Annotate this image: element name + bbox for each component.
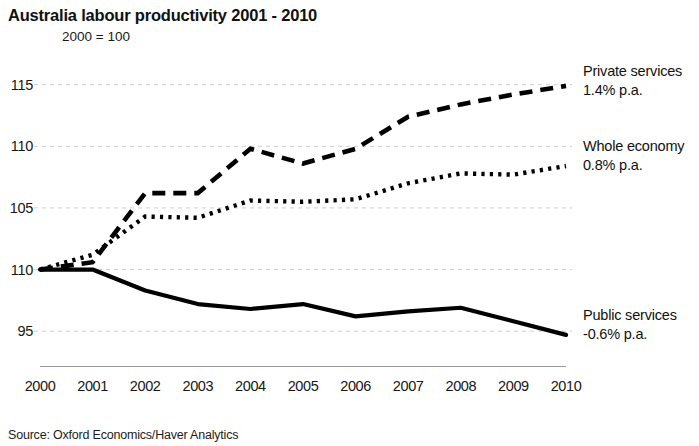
x-axis-tick-label: 2003	[182, 378, 213, 394]
series-annotation-whole-economy: Whole economy 0.8% p.a.	[583, 137, 684, 175]
x-axis-tick-label: 2005	[288, 378, 319, 394]
y-axis-labels: 11511010511095	[0, 60, 33, 362]
gridlines	[34, 85, 572, 332]
series-annotation-private-services: Private services 1.4% p.a.	[583, 62, 682, 100]
series-lines	[40, 86, 566, 335]
y-axis-tick-label: 115	[11, 77, 33, 93]
chart-subtitle: 2000 = 100	[62, 29, 130, 44]
y-axis-tick-label: 95	[17, 323, 33, 339]
series-line-private-services	[40, 86, 566, 270]
x-axis-tick-label: 2006	[340, 378, 371, 394]
x-axis-tick-label: 2010	[551, 378, 582, 394]
x-axis-tick-label: 2009	[498, 378, 529, 394]
x-axis-tick-label: 2008	[445, 378, 476, 394]
series-annotation-public-services: Public services -0.6% p.a.	[583, 306, 677, 344]
series-annotation-public-services-rate: -0.6% p.a.	[583, 325, 677, 344]
series-line-whole-economy	[40, 166, 566, 270]
x-axis-tick-label: 2000	[25, 378, 56, 394]
series-annotation-private-services-label: Private services	[583, 62, 682, 81]
series-annotation-public-services-label: Public services	[583, 306, 677, 325]
plot-area	[40, 60, 566, 362]
x-axis-tick-label: 2001	[77, 378, 108, 394]
plot-svg	[40, 60, 566, 362]
series-line-public-services	[40, 270, 566, 335]
y-axis-tick-label: 110	[11, 262, 33, 278]
x-axis-labels: 2000200120022003200420052006200720082009…	[40, 378, 566, 402]
series-annotation-whole-economy-rate: 0.8% p.a.	[583, 156, 684, 175]
x-axis-line	[40, 366, 566, 367]
series-annotation-whole-economy-label: Whole economy	[583, 137, 684, 156]
chart-title: Australia labour productivity 2001 - 201…	[8, 6, 317, 25]
x-axis-tick-label: 2007	[393, 378, 424, 394]
y-axis-tick-label: 110	[11, 138, 33, 154]
x-axis-tick-label: 2004	[235, 378, 266, 394]
y-axis-tick-label: 105	[10, 200, 33, 216]
x-axis-tick-label: 2002	[130, 378, 161, 394]
series-annotation-private-services-rate: 1.4% p.a.	[583, 81, 682, 100]
source-note: Source: Oxford Economics/Haver Analytics	[8, 428, 238, 442]
chart-root: Australia labour productivity 2001 - 201…	[0, 0, 699, 446]
